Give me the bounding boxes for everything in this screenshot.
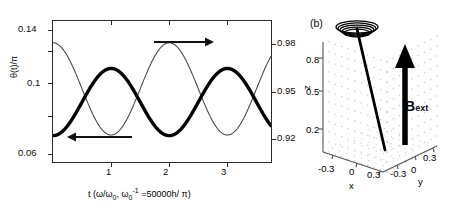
panel-b-bext-label: Bext	[405, 99, 428, 113]
panel-b-ytick-0: -0.3	[390, 168, 406, 179]
panel-a-xtick-2: 3	[221, 167, 226, 177]
panel-b-tag: (b)	[310, 18, 323, 29]
panel-a-ytick-left-0: 0.14	[18, 24, 37, 34]
xlabel-omega2-sub: 0	[129, 194, 133, 201]
xlabel-part-1: t (	[88, 189, 96, 199]
xlabel-omega2: ω	[121, 189, 128, 199]
xlabel-omega-ratio: ω/ω	[96, 189, 113, 199]
figure-root: (a) θ(t)/π t (ω/ω0, ω0-1 =50000h/ π) 0.1…	[0, 0, 457, 212]
ytick-mark-left-0	[48, 30, 53, 31]
panel-b-xtick-2: 0.3	[367, 169, 380, 180]
ytick-mark-left-1b	[48, 116, 53, 117]
xtick-mark-2	[227, 162, 228, 167]
ytick-mark-left-2	[48, 154, 53, 155]
ytick-mark-right-1	[271, 92, 276, 93]
precession-spiral	[336, 21, 378, 37]
panel-a-ytick-left-2: 0.06	[18, 148, 37, 158]
panel-b-ztick-0: 0.8	[306, 54, 319, 65]
panel-b-xlabel: x	[349, 180, 354, 191]
panel-a-xlabel: t (ω/ω0, ω0-1 =50000h/ π)	[88, 187, 191, 201]
panel-b-z-ticks	[319, 58, 323, 129]
panel-b-ytick-1: 0	[411, 164, 416, 175]
ytick-mark-left-1	[48, 83, 53, 84]
panel-a-xtick-1: 2	[163, 167, 168, 177]
ytick-mark-right-0	[271, 44, 276, 45]
xtick-mark-top-2	[227, 21, 228, 25]
xtick-mark-top-1	[169, 21, 170, 25]
bext-subscript: ext	[415, 103, 428, 113]
ytick-mark-right-2	[271, 139, 276, 140]
panel-a-ytick-left-1: 0.1	[27, 78, 40, 88]
panel-a: (a) θ(t)/π t (ω/ω0, ω0-1 =50000h/ π) 0.1…	[0, 0, 285, 212]
panel-a-xtick-0: 1	[106, 167, 111, 177]
panel-b-xtick-0: -0.3	[318, 163, 334, 174]
panel-b-ztick-2: 0.2	[306, 124, 319, 135]
panel-b-ytick-2: 0.3	[423, 152, 436, 163]
cos-theta-curve	[53, 43, 271, 135]
panel-b-3d-plot	[285, 0, 457, 212]
xtick-mark-1	[169, 162, 170, 167]
xtick-mark-top-0	[111, 21, 112, 25]
panel-b-ztick-1: 0.5	[306, 86, 319, 97]
panel-b: (b) z 0.8 0.5 0.2 -0.3 0 0.3 x -0.3 0 0.…	[285, 0, 457, 212]
panel-a-plot-frame	[52, 20, 272, 163]
left-arrow-annotation	[67, 133, 132, 142]
xlabel-tail: =50000h/ π)	[139, 189, 191, 199]
panel-b-ylabel: y	[418, 176, 423, 187]
xtick-mark-0	[111, 162, 112, 167]
theta-curve	[53, 68, 271, 135]
panel-b-xtick-1: 0	[349, 166, 354, 177]
panel-a-curves	[53, 21, 271, 162]
bext-symbol: B	[405, 98, 415, 114]
ytick-mark-left-0b	[48, 51, 53, 52]
panel-a-ylabel-left: θ(t)/π	[9, 56, 19, 78]
